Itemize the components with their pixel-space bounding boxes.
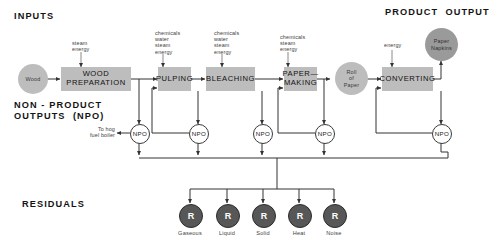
input-label-paper-making: chemicals steam energy — [280, 34, 305, 53]
node-npo-pulping-label: NPO — [192, 131, 206, 137]
node-residual-gaseous[interactable]: R — [179, 204, 203, 228]
process-converting[interactable]: CONVERTING — [382, 67, 433, 91]
node-roll-of-paper-label: Roll of Paper — [344, 69, 359, 88]
process-bleaching-label: BLEACHING — [206, 75, 255, 84]
node-npo-wood-preparation[interactable]: NPO — [130, 124, 150, 144]
label-residual-noise: Noise — [312, 230, 356, 236]
process-pulping-label: PULPING — [156, 75, 193, 84]
node-npo-paper-making[interactable]: NPO — [315, 124, 335, 144]
node-residual-heat[interactable]: R — [288, 204, 312, 228]
node-npo-paper-making-label: NPO — [318, 131, 332, 137]
input-label-pulping: chemicals water steam energy — [155, 30, 180, 55]
node-residual-gaseous-symbol: R — [188, 213, 195, 219]
node-npo-pulping[interactable]: NPO — [189, 124, 209, 144]
input-label-wood-preparation: steam energy — [72, 40, 89, 52]
node-residual-heat-symbol: R — [297, 213, 304, 219]
node-residual-solid[interactable]: R — [252, 204, 276, 228]
node-wood[interactable]: Wood — [18, 64, 48, 94]
node-paper-napkins[interactable]: Paper Napkins — [425, 28, 458, 61]
node-npo-wood-preparation-label: NPO — [133, 131, 147, 137]
process-wood-preparation-label: WOOD PREPARATION — [66, 70, 125, 87]
node-residual-noise-symbol: R — [332, 213, 339, 219]
heading-residuals: RESIDUALS — [22, 199, 85, 210]
process-converting-label: CONVERTING — [380, 75, 436, 84]
process-pulping[interactable]: PULPING — [158, 67, 191, 91]
process-paper-making-label: PAPER— MAKING — [282, 70, 318, 87]
node-residual-liquid[interactable]: R — [216, 204, 240, 228]
heading-non-product-outputs: NON - PRODUCT OUTPUTS (NPO) — [14, 100, 104, 121]
heading-inputs: INPUTS — [14, 11, 54, 22]
node-npo-converting-label: NPO — [435, 131, 449, 137]
heading-product-output: PRODUCT OUTPUT — [385, 7, 490, 18]
node-paper-napkins-label: Paper Napkins — [431, 38, 452, 50]
node-npo-bleaching[interactable]: NPO — [253, 124, 273, 144]
node-npo-converting[interactable]: NPO — [432, 124, 452, 144]
node-npo-bleaching-label: NPO — [256, 131, 270, 137]
process-paper-making[interactable]: PAPER— MAKING — [284, 67, 317, 91]
node-roll-of-paper[interactable]: Roll of Paper — [335, 62, 368, 95]
node-residual-liquid-symbol: R — [225, 213, 232, 219]
input-label-converting: energy — [384, 42, 401, 48]
input-label-bleaching: chemicals water steam energy — [214, 30, 239, 55]
node-wood-label: Wood — [26, 76, 41, 82]
node-residual-solid-symbol: R — [261, 213, 268, 219]
node-residual-noise[interactable]: R — [323, 204, 347, 228]
process-bleaching[interactable]: BLEACHING — [206, 67, 255, 91]
hog-fuel-boiler-label: To hog fuel boiler — [55, 126, 115, 139]
process-wood-preparation[interactable]: WOOD PREPARATION — [61, 67, 131, 91]
